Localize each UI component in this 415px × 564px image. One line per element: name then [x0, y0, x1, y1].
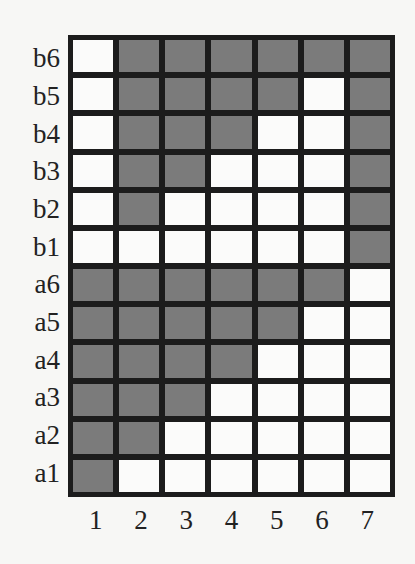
row-label: a4 [18, 341, 66, 379]
empty-cell [119, 231, 159, 263]
filled-cell [73, 307, 113, 339]
empty-cell [211, 384, 251, 416]
filled-cell [165, 307, 205, 339]
filled-cell [119, 193, 159, 225]
empty-cell [304, 384, 344, 416]
row-label: a1 [18, 454, 66, 492]
empty-cell [258, 231, 298, 263]
empty-cell [350, 269, 390, 301]
column-label: 7 [345, 500, 390, 540]
filled-cell [211, 116, 251, 148]
empty-cell [350, 307, 390, 339]
empty-cell [165, 460, 205, 492]
filled-cell [350, 193, 390, 225]
filled-cell [350, 78, 390, 110]
empty-cell [73, 231, 113, 263]
empty-cell [304, 345, 344, 377]
filled-cell [211, 345, 251, 377]
filled-cell [165, 155, 205, 187]
row-label: b5 [18, 78, 66, 116]
filled-cell [211, 78, 251, 110]
empty-cell [350, 460, 390, 492]
empty-cell [258, 116, 298, 148]
column-label: 4 [209, 500, 254, 540]
empty-cell [258, 384, 298, 416]
empty-cell [211, 193, 251, 225]
row-label: b4 [18, 115, 66, 153]
filled-cell [119, 40, 159, 72]
row-label: a6 [18, 266, 66, 304]
column-label: 1 [73, 500, 118, 540]
filled-cell [258, 307, 298, 339]
empty-cell [350, 422, 390, 454]
filled-cell [211, 307, 251, 339]
empty-cell [304, 155, 344, 187]
filled-cell [119, 422, 159, 454]
empty-cell [119, 460, 159, 492]
empty-cell [165, 422, 205, 454]
row-label: b3 [18, 153, 66, 191]
empty-cell [165, 193, 205, 225]
filled-cell [165, 269, 205, 301]
empty-cell [304, 193, 344, 225]
filled-cell [119, 384, 159, 416]
filled-cell [165, 40, 205, 72]
filled-cell [165, 78, 205, 110]
empty-cell [211, 460, 251, 492]
empty-cell [258, 155, 298, 187]
row-label: b1 [18, 228, 66, 266]
empty-cell [350, 345, 390, 377]
empty-cell [258, 460, 298, 492]
filled-cell [119, 155, 159, 187]
column-label: 5 [254, 500, 299, 540]
empty-cell [304, 231, 344, 263]
empty-cell [73, 116, 113, 148]
empty-cell [211, 155, 251, 187]
empty-cell [73, 193, 113, 225]
empty-cell [258, 422, 298, 454]
filled-cell [119, 345, 159, 377]
filled-cell [119, 78, 159, 110]
filled-cell [304, 269, 344, 301]
filled-cell [119, 116, 159, 148]
filled-cell [350, 40, 390, 72]
empty-cell [304, 78, 344, 110]
empty-cell [258, 345, 298, 377]
empty-cell [350, 384, 390, 416]
column-labels: 1234567 [68, 500, 395, 540]
filled-cell [350, 231, 390, 263]
filled-cell [73, 460, 113, 492]
filled-cell [119, 307, 159, 339]
filled-cell [165, 116, 205, 148]
row-label: a2 [18, 417, 66, 455]
cell-grid [68, 35, 395, 497]
row-label: b6 [18, 40, 66, 78]
filled-cell [73, 269, 113, 301]
row-label: a3 [18, 379, 66, 417]
empty-cell [73, 78, 113, 110]
empty-cell [211, 422, 251, 454]
filled-cell [73, 422, 113, 454]
filled-cell [350, 155, 390, 187]
filled-cell [211, 40, 251, 72]
filled-cell [73, 345, 113, 377]
filled-cell [258, 269, 298, 301]
row-labels: b6b5b4b3b2b1a6a5a4a3a2a1 [18, 35, 66, 497]
empty-cell [304, 307, 344, 339]
filled-cell [211, 269, 251, 301]
empty-cell [73, 40, 113, 72]
column-label: 6 [299, 500, 344, 540]
empty-cell [73, 155, 113, 187]
filled-cell [73, 384, 113, 416]
empty-cell [211, 231, 251, 263]
empty-cell [304, 116, 344, 148]
filled-cell [165, 345, 205, 377]
column-label: 3 [164, 500, 209, 540]
empty-cell [304, 422, 344, 454]
filled-cell [119, 269, 159, 301]
empty-cell [304, 460, 344, 492]
filled-cell [350, 116, 390, 148]
filled-cell [258, 78, 298, 110]
row-label: a5 [18, 304, 66, 342]
filled-cell [258, 40, 298, 72]
